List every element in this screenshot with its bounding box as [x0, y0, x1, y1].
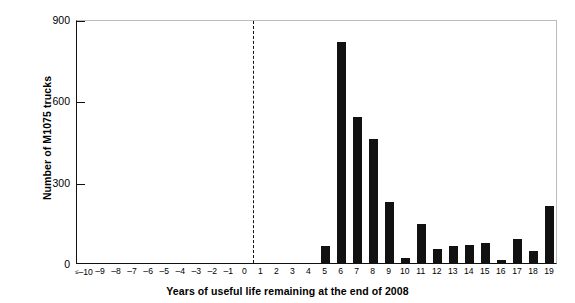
- x-tick-label-1: –9: [95, 266, 105, 277]
- x-tick-label-9: –1: [224, 266, 234, 277]
- y-tick-label-300: 300: [52, 178, 70, 188]
- x-tick-label-11: 1: [258, 266, 263, 277]
- x-tick-label-15: 5: [322, 266, 327, 277]
- y-tick-label-0: 0: [64, 259, 70, 269]
- bar-11: [417, 224, 426, 263]
- x-tick-label-10: 0: [242, 266, 247, 277]
- x-tick-label-0: ≤–10: [75, 266, 93, 278]
- bar-9: [385, 202, 394, 263]
- bar-14: [465, 245, 474, 263]
- x-tick-label-12: 2: [274, 266, 279, 277]
- x-axis-tick-labels: ≤–10–9–8–7–6–5–4–3–2–1012345678910111213…: [76, 266, 557, 282]
- x-tick-label-2: –8: [111, 266, 121, 277]
- x-tick-label-29: 19: [544, 266, 554, 277]
- bar-17: [513, 239, 522, 263]
- bar-15: [481, 243, 490, 263]
- x-tick-label-22: 12: [432, 266, 442, 277]
- x-tick-label-7: –3: [191, 266, 201, 277]
- x-tick-label-23: 13: [448, 266, 458, 277]
- x-tick-label-17: 7: [354, 266, 359, 277]
- x-tick-label-24: 14: [464, 266, 474, 277]
- bar-7: [353, 117, 362, 263]
- x-tick-label-20: 10: [400, 266, 410, 277]
- y-tick-label-900: 900: [52, 15, 70, 25]
- x-tick-label-16: 6: [338, 266, 343, 277]
- x-tick-label-14: 4: [306, 266, 311, 277]
- histogram-figure: Number of M1075 trucks 0300600900 ≤–10–9…: [0, 0, 575, 303]
- x-tick-label-8: –2: [208, 266, 218, 277]
- x-tick-label-27: 17: [512, 266, 522, 277]
- bar-6: [337, 42, 346, 263]
- bar-8: [369, 139, 378, 263]
- y-axis-tick-labels: 0300600900: [34, 0, 70, 303]
- bar-18: [529, 251, 538, 263]
- bar-12: [433, 249, 442, 263]
- plot-area: [76, 20, 557, 264]
- x-tick-label-4: –6: [143, 266, 153, 277]
- x-tick-label-25: 15: [480, 266, 490, 277]
- bar-5: [321, 246, 330, 263]
- y-tick-label-600: 600: [52, 96, 70, 106]
- x-axis-title: Years of useful life remaining at the en…: [0, 285, 575, 297]
- x-tick-label-19: 9: [386, 266, 391, 277]
- bar-13: [449, 246, 458, 263]
- x-tick-label-5: –5: [159, 266, 169, 277]
- x-tick-label-18: 8: [370, 266, 375, 277]
- x-tick-label-3: –7: [127, 266, 137, 277]
- bar-series: [77, 21, 556, 263]
- x-tick-label-26: 16: [496, 266, 506, 277]
- bar-10: [401, 258, 410, 263]
- bar-16: [497, 260, 506, 263]
- bar-19: [545, 206, 554, 263]
- x-tick-label-6: –4: [175, 266, 185, 277]
- x-tick-label-13: 3: [290, 266, 295, 277]
- x-tick-label-21: 11: [416, 266, 425, 277]
- x-tick-label-28: 18: [528, 266, 538, 277]
